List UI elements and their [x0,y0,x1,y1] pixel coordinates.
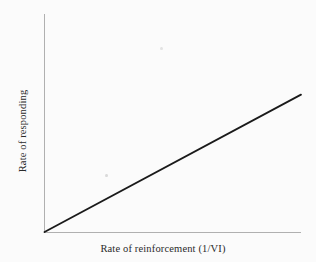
y-axis-label: Rate of responding [14,0,72,262]
series-line-response-rate [45,95,302,232]
chart-figure: Rate of responding Rate of reinforcement… [0,0,316,262]
x-axis-label: Rate of reinforcement (1/VI) [0,243,316,254]
